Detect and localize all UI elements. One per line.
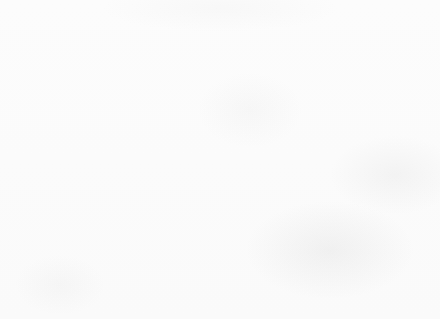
bar xyxy=(74,45,100,208)
bars-group xyxy=(64,13,424,208)
x-tick-label: Forceps low xyxy=(277,209,325,259)
y-axis-title: Relative Frequency xyxy=(0,0,22,215)
bar xyxy=(254,198,280,208)
x-axis-title: Method of delivery xyxy=(64,290,424,302)
y-tick-label: 70% xyxy=(36,7,57,19)
x-tick-label: Breech other xyxy=(319,209,369,262)
y-axis-title-text: Relative Frequency xyxy=(5,61,17,153)
x-axis-tick-labels: Spontaneous vertexCaesarean emergencyCae… xyxy=(0,209,440,289)
bar xyxy=(299,200,325,208)
bar xyxy=(209,193,235,208)
y-tick-label: 40% xyxy=(36,91,57,103)
x-tick-label: Ventouse xyxy=(195,209,234,250)
bar xyxy=(164,174,190,208)
y-tick-label: 60% xyxy=(36,35,57,47)
bar-chart-figure: Relative Frequency 0%10%20%30%40%50%60%7… xyxy=(0,0,440,319)
y-tick-label: 50% xyxy=(36,63,57,75)
plot-area: 0%10%20%30%40%50%60%70% xyxy=(64,13,424,208)
y-tick-label: 30% xyxy=(36,118,57,130)
bar xyxy=(119,164,145,208)
y-tick-label: 10% xyxy=(36,174,57,186)
x-tick-label: Caesarean emergency xyxy=(62,209,144,296)
y-tick-label: 20% xyxy=(36,146,57,158)
